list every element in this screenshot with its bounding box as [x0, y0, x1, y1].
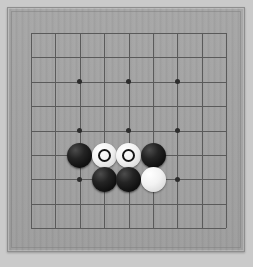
star-point	[126, 79, 131, 84]
stone-white[interactable]	[116, 143, 141, 168]
stone-white[interactable]	[141, 167, 166, 192]
star-point	[77, 128, 82, 133]
stone-circle-marker-icon	[122, 149, 135, 162]
grid-line-vertical	[31, 33, 32, 228]
grid-line-vertical	[153, 33, 154, 228]
stone-black[interactable]	[116, 167, 141, 192]
star-point	[77, 177, 82, 182]
stone-white[interactable]	[92, 143, 117, 168]
grid-line-vertical	[226, 33, 227, 228]
star-point	[175, 177, 180, 182]
stone-black[interactable]	[92, 167, 117, 192]
star-point	[126, 128, 131, 133]
star-point	[175, 79, 180, 84]
grid-line-vertical	[55, 33, 56, 228]
grid-layer	[8, 8, 246, 253]
goban-board[interactable]	[7, 7, 245, 252]
stone-black[interactable]	[141, 143, 166, 168]
grid-line-vertical	[104, 33, 105, 228]
star-point	[175, 128, 180, 133]
go-board-app	[0, 0, 253, 267]
stone-circle-marker-icon	[98, 149, 111, 162]
grid-line-horizontal	[31, 228, 226, 229]
grid-line-vertical	[202, 33, 203, 228]
star-point	[77, 79, 82, 84]
stone-black[interactable]	[67, 143, 92, 168]
